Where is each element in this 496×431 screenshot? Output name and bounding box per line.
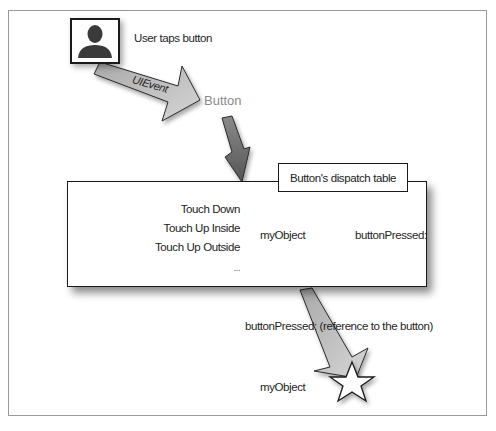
message-label: buttonPressed: (reference to the button) xyxy=(245,320,433,332)
control-events-list: Touch Down Touch Up Inside Touch Up Outs… xyxy=(155,200,240,278)
event-more: ... xyxy=(155,259,240,278)
person-silhouette-icon xyxy=(72,20,118,62)
action-label: buttonPressed: xyxy=(355,229,427,241)
message-arrow xyxy=(300,288,368,378)
button-down-arrow xyxy=(222,116,250,182)
dispatch-table-title: Button's dispatch table xyxy=(278,163,408,192)
receiver-label: myObject xyxy=(260,381,305,393)
target-label: myObject xyxy=(260,229,305,241)
user-action-label: User taps button xyxy=(134,32,212,44)
event-touch-up-inside: Touch Up Inside xyxy=(155,219,240,238)
event-touch-up-outside: Touch Up Outside xyxy=(155,238,240,257)
uievent-arrow xyxy=(94,62,200,121)
button-label: Button xyxy=(204,93,242,108)
user-avatar xyxy=(70,18,120,64)
event-touch-down: Touch Down xyxy=(155,200,240,219)
